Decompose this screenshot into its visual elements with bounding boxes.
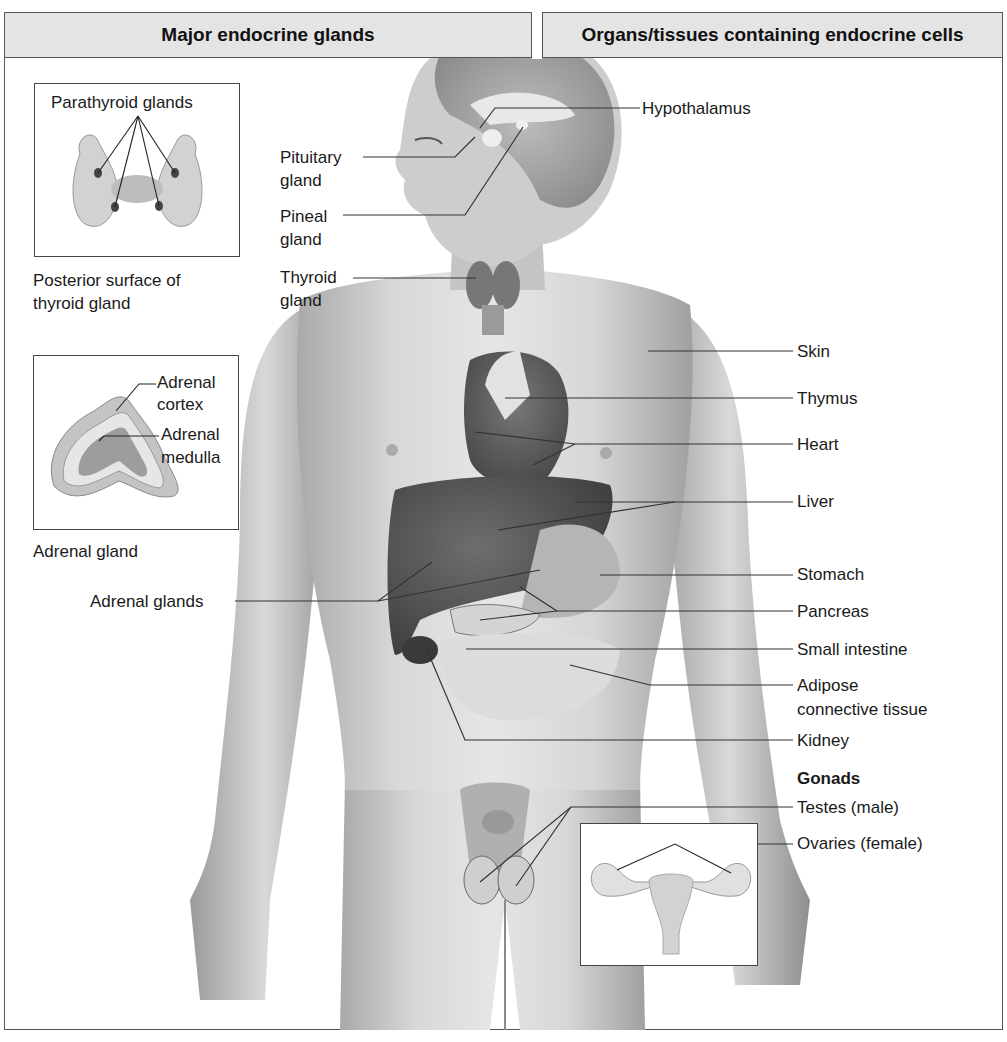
- thyroid-label-2: gland: [280, 289, 322, 312]
- adrenal-medulla-label-2: medulla: [161, 446, 221, 469]
- adrenal-inset-caption: Adrenal gland: [33, 540, 138, 563]
- gonads-heading: Gonads: [797, 767, 860, 790]
- pituitary-label-1: Pituitary: [280, 146, 341, 169]
- heart-label: Heart: [797, 433, 839, 456]
- pituitary-label-2: gland: [280, 169, 322, 192]
- header-major-endocrine-glands: Major endocrine glands: [4, 12, 532, 58]
- liver-label: Liver: [797, 490, 834, 513]
- adrenal-glands-label: Adrenal glands: [90, 590, 203, 613]
- thyroid-inset-caption-2: thyroid gland: [33, 292, 130, 315]
- adrenal-cortex-label-2: cortex: [157, 393, 203, 416]
- male-reproductive-organs: [460, 783, 534, 905]
- header-right-title: Organs/tissues containing endocrine cell…: [581, 24, 963, 46]
- thyroid-posterior-illustration: [35, 84, 241, 258]
- adrenal-cortex-label-1: Adrenal: [157, 371, 216, 394]
- testes-label: Testes (male): [797, 796, 899, 819]
- header-left-title: Major endocrine glands: [161, 24, 374, 46]
- kidney-organ: [402, 636, 438, 664]
- adipose-label-2: connective tissue: [797, 698, 927, 721]
- hypothalamus-label: Hypothalamus: [642, 97, 751, 120]
- thymus-label: Thymus: [797, 387, 857, 410]
- adrenal-medulla-label-1: Adrenal: [161, 423, 220, 446]
- ovaries-label: Ovaries (female): [797, 832, 923, 855]
- ovaries-inset: [580, 823, 758, 966]
- small-intestine-label: Small intestine: [797, 638, 908, 661]
- uterus-ovaries-illustration: [581, 824, 759, 967]
- stomach-label: Stomach: [797, 563, 864, 586]
- header-gap: [532, 10, 542, 59]
- header-organs-tissues: Organs/tissues containing endocrine cell…: [542, 12, 1003, 58]
- pancreas-label: Pancreas: [797, 600, 869, 623]
- adipose-label-1: Adipose: [797, 674, 858, 697]
- parathyroid-inset: Parathyroid glands: [34, 83, 240, 257]
- pineal-label-2: gland: [280, 228, 322, 251]
- pineal-label-1: Pineal: [280, 205, 327, 228]
- adrenal-inset: Adrenal cortex Adrenal medulla: [33, 355, 239, 530]
- thyroid-label-1: Thyroid: [280, 266, 337, 289]
- skin-label: Skin: [797, 340, 830, 363]
- kidney-label: Kidney: [797, 729, 849, 752]
- thyroid-inset-caption-1: Posterior surface of: [33, 269, 180, 292]
- heart-organ: [464, 352, 568, 485]
